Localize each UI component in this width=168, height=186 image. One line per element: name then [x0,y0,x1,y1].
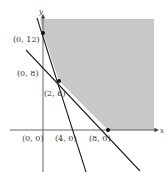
vertex-0-12 [41,31,45,35]
linear-programming-graph: y x (0, 12) (0, 8) (2, 6) (0, 0) (4, 0) … [0,0,168,186]
label-2-6: (2, 6) [44,89,66,98]
vertex-2-6 [57,79,61,83]
label-8-0: (8, 0) [89,134,111,143]
y-axis-label: y [38,8,44,16]
x-axis-label: x [160,127,164,135]
label-0-0: (0, 0) [22,134,44,143]
label-0-8: (0, 8) [17,69,39,78]
feasible-region [40,19,154,130]
vertex-8-0 [106,128,110,132]
label-4-0: (4, 0) [55,134,77,143]
label-0-12: (0, 12) [13,35,40,44]
